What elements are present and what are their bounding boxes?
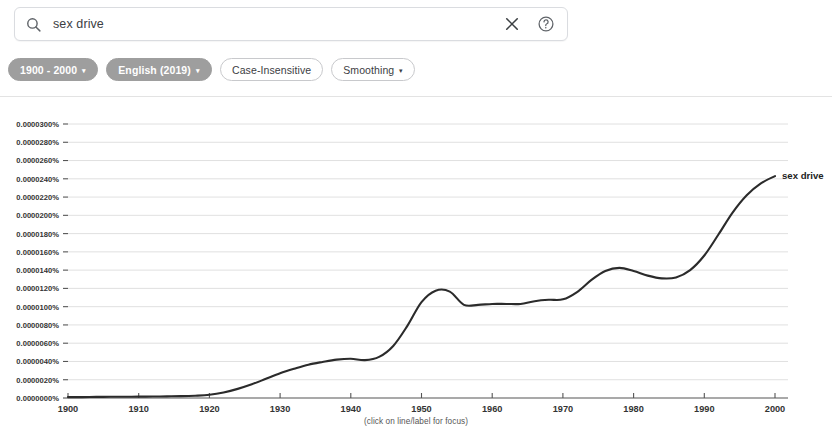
close-icon[interactable] <box>503 15 521 33</box>
chip-date-range-label: 1900 - 2000 <box>20 64 77 76</box>
y-axis-tick-label: 0.0000240% <box>16 175 59 184</box>
x-axis-tick-label: 1920 <box>199 404 219 414</box>
x-axis-tick-label: 1990 <box>694 404 714 414</box>
x-axis-tick-label: 1940 <box>341 404 361 414</box>
chart-hint: (click on line/label for focus) <box>0 417 832 426</box>
x-axis-tick-label: 1950 <box>411 404 431 414</box>
y-axis-tick-label: 0.0000260% <box>16 156 59 165</box>
chip-case-insensitive-label: Case-Insensitive <box>232 64 311 76</box>
search-bar[interactable] <box>14 7 568 41</box>
chip-corpus-label: English (2019) <box>118 64 191 76</box>
y-axis-tick-label: 0.0000000% <box>16 394 59 403</box>
search-input[interactable] <box>53 17 503 31</box>
x-axis-tick-label: 1970 <box>553 404 573 414</box>
search-icon <box>25 16 42 33</box>
y-axis-tick-label: 0.0000160% <box>16 248 59 257</box>
x-axis-tick-label: 1960 <box>482 404 502 414</box>
y-axis-tick-label: 0.0000120% <box>16 284 59 293</box>
x-axis-tick-label: 1910 <box>128 404 148 414</box>
chevron-down-icon: ▾ <box>196 67 200 74</box>
y-axis-ticks: 0.0000300%0.0000280%0.0000260%0.0000240%… <box>16 120 68 403</box>
chip-smoothing[interactable]: Smoothing ▾ <box>331 58 415 81</box>
chart-canvas[interactable]: 0.0000300%0.0000280%0.0000260%0.0000240%… <box>0 104 832 436</box>
chip-case-insensitive[interactable]: Case-Insensitive <box>220 58 323 81</box>
chip-corpus[interactable]: English (2019) ▾ <box>106 58 212 81</box>
grid-lines <box>68 124 788 380</box>
help-circle-icon[interactable] <box>537 15 555 33</box>
chip-smoothing-label: Smoothing <box>343 64 394 76</box>
chevron-down-icon: ▾ <box>82 67 86 74</box>
x-axis-tick-label: 2000 <box>765 404 785 414</box>
x-axis-tick-label: 1930 <box>270 404 290 414</box>
y-axis-tick-label: 0.0000300% <box>16 120 59 129</box>
y-axis-tick-label: 0.0000020% <box>16 376 59 385</box>
series-line-sex-drive[interactable] <box>68 176 775 397</box>
x-axis-tick-label: 1900 <box>58 404 78 414</box>
y-axis-tick-label: 0.0000200% <box>16 211 59 220</box>
x-axis-tick-label: 1980 <box>623 404 643 414</box>
y-axis-tick-label: 0.0000100% <box>16 303 59 312</box>
chip-date-range[interactable]: 1900 - 2000 ▾ <box>8 58 98 81</box>
y-axis-tick-label: 0.0000080% <box>16 321 59 330</box>
series-path[interactable] <box>68 176 775 397</box>
y-axis-tick-label: 0.0000060% <box>16 339 59 348</box>
y-axis-tick-label: 0.0000220% <box>16 193 59 202</box>
y-axis-tick-label: 0.0000040% <box>16 357 59 366</box>
chevron-down-icon: ▾ <box>399 67 403 74</box>
filter-chip-row: 1900 - 2000 ▾ English (2019) ▾ Case-Inse… <box>8 58 415 81</box>
y-axis-tick-label: 0.0000180% <box>16 230 59 239</box>
y-axis-tick-label: 0.0000140% <box>16 266 59 275</box>
ngram-chart[interactable]: 0.0000300%0.0000280%0.0000260%0.0000240%… <box>0 104 832 436</box>
series-label-sex-drive[interactable]: sex drive <box>782 170 824 181</box>
y-axis-tick-label: 0.0000280% <box>16 138 59 147</box>
series-label-text[interactable]: sex drive <box>782 170 824 181</box>
header-divider <box>0 96 832 97</box>
